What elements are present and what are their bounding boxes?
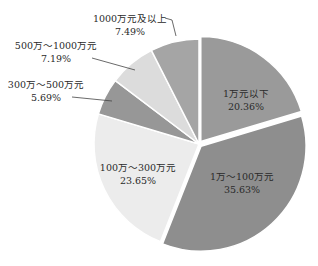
label-name-500w-1000w: 500万～1000万元 bbox=[15, 40, 97, 51]
label-name-over-1000w: 1000万元及以上 bbox=[93, 13, 167, 24]
label-name-under-1w: 1万元以下 bbox=[223, 88, 269, 99]
label-name-100w-300w: 100万～300万元 bbox=[100, 162, 176, 173]
leader-500w-1000w bbox=[92, 58, 135, 70]
label-pct-over-1000w: 7.49% bbox=[115, 26, 145, 37]
label-pct-1w-100w: 35.63% bbox=[224, 184, 260, 195]
label-pct-500w-1000w: 7.19% bbox=[41, 53, 71, 64]
label-pct-under-1w: 20.36% bbox=[228, 101, 264, 112]
label-name-1w-100w: 1万～100万元 bbox=[210, 171, 274, 182]
pie-chart: 1万元以下 20.36% 1万～100万元 35.63% 100万～300万元 … bbox=[0, 0, 318, 266]
label-pct-100w-300w: 23.65% bbox=[120, 175, 156, 186]
pie-slices bbox=[94, 37, 306, 252]
label-pct-300w-500w: 5.69% bbox=[31, 92, 61, 103]
label-name-300w-500w: 300万～500万元 bbox=[8, 79, 84, 90]
